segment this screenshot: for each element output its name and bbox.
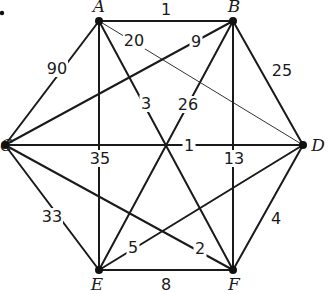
vertex-f (229, 266, 237, 274)
vertex-b (229, 17, 237, 25)
vertex-labels: ABCDEF (0, 0, 325, 294)
edge-weight-b-f: 13 (224, 149, 244, 168)
edge-weight-b-d: 25 (272, 61, 292, 80)
bullet-marker (0, 11, 4, 15)
edge-weight-a-e: 35 (90, 149, 110, 168)
edge-weight-a-f: 3 (141, 94, 151, 113)
edge-weight-c-f: 2 (195, 239, 205, 258)
vertex-e (95, 266, 103, 274)
edge-weight-d-f: 4 (271, 209, 281, 228)
edge-a-c (5, 21, 99, 145)
edge-weight-e-f: 8 (161, 275, 171, 294)
vertex-label-c: C (0, 135, 13, 155)
edge-weight-a-c: 90 (47, 59, 67, 78)
edge-weight-a-d: 20 (124, 31, 144, 50)
vertex-label-d: D (310, 135, 325, 155)
vertex-label-a: A (91, 0, 105, 16)
weighted-graph-diagram: 1902035392526131332548 ABCDEF (0, 0, 329, 294)
vertex-label-e: E (90, 274, 104, 294)
edge-weight-b-e: 26 (178, 95, 198, 114)
edge-weight-c-d: 1 (184, 136, 194, 155)
vertex-label-b: B (227, 0, 241, 16)
edge-weight-d-e: 5 (128, 238, 138, 257)
edge-weight-c-e: 33 (42, 207, 62, 226)
edge-b-d (233, 21, 303, 145)
edge-weight-b-c: 9 (191, 32, 201, 51)
vertex-a (95, 17, 103, 25)
vertex-d (299, 141, 307, 149)
edge-weight-a-b: 1 (161, 0, 171, 19)
vertex-label-f: F (227, 274, 241, 294)
